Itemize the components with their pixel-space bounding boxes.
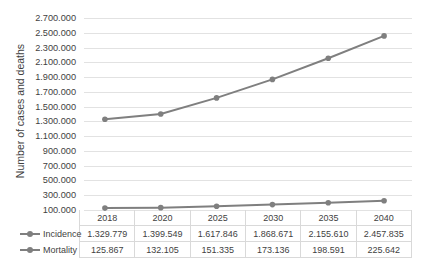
table-header-row: 201820202025203020352040: [18, 210, 412, 226]
legend-label: Incidence: [43, 229, 82, 239]
data-point: [270, 202, 276, 208]
chart-container: Number of cases and deaths 2.700.0002.50…: [0, 0, 421, 272]
y-axis-tick-label: 700.000: [0, 161, 76, 171]
table-cell-value: 173.136: [245, 242, 300, 258]
table-row: Incidence1.329.7791.399.5491.617.8461.86…: [18, 226, 412, 242]
table-cell-value: 125.867: [80, 242, 135, 258]
data-point: [381, 33, 387, 39]
table-cell-value: 1.399.549: [135, 226, 190, 242]
x-axis-category-label: 2025: [190, 210, 245, 226]
y-axis-tick-label: 900.000: [0, 146, 76, 156]
y-axis-tick-label: 1.100.000: [0, 131, 76, 141]
data-point: [102, 116, 108, 122]
plot-area: [84, 18, 412, 210]
legend-marker-icon: [20, 230, 40, 238]
y-axis-tick-label: 300.000: [0, 190, 76, 200]
x-axis-category-label: 2020: [135, 210, 190, 226]
x-axis-category-label: 2040: [356, 210, 411, 226]
data-table: 201820202025203020352040Incidence1.329.7…: [18, 210, 412, 258]
series-line-mortality: [105, 201, 384, 208]
y-axis-tick-label: 500.000: [0, 175, 76, 185]
x-axis-category-label: 2030: [245, 210, 300, 226]
x-axis-category-label: 2035: [301, 210, 356, 226]
y-axis-tick-label: 2.500.000: [0, 28, 76, 38]
data-point: [270, 77, 276, 83]
series-layer: [84, 18, 412, 210]
x-axis-category-label: 2018: [80, 210, 135, 226]
legend-label: Mortality: [43, 245, 77, 255]
table-corner-cell: [18, 210, 80, 226]
table-cell-value: 2.155.610: [301, 226, 356, 242]
data-point: [158, 111, 164, 117]
data-point: [214, 95, 220, 101]
series-line-incidence: [105, 36, 384, 119]
data-point: [214, 203, 220, 209]
table-cell-value: 151.335: [190, 242, 245, 258]
legend-item-incidence[interactable]: Incidence: [18, 226, 80, 242]
y-axis-tick-label: 2.300.000: [0, 43, 76, 53]
legend-item-mortality[interactable]: Mortality: [18, 242, 80, 258]
data-point: [381, 198, 387, 204]
table-cell-value: 1.329.779: [80, 226, 135, 242]
y-axis-tick-label: 2.100.000: [0, 57, 76, 67]
table-cell-value: 132.105: [135, 242, 190, 258]
y-axis-tick-label: 1.700.000: [0, 87, 76, 97]
y-axis-tick-label: 1.300.000: [0, 116, 76, 126]
table-cell-value: 225.642: [356, 242, 411, 258]
table-cell-value: 198.591: [301, 242, 356, 258]
legend-marker-icon: [20, 246, 40, 254]
table-cell-value: 1.617.846: [190, 226, 245, 242]
table-cell-value: 2.457.835: [356, 226, 411, 242]
table-cell-value: 1.868.671: [245, 226, 300, 242]
y-axis-tick-label: 1.900.000: [0, 72, 76, 82]
table-row: Mortality125.867132.105151.335173.136198…: [18, 242, 412, 258]
y-axis-tick-label: 2.700.000: [0, 13, 76, 23]
data-point: [325, 200, 331, 206]
data-point: [325, 55, 331, 61]
y-axis-tick-label: 1.500.000: [0, 102, 76, 112]
